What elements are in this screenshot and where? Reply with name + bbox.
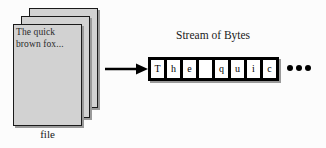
byte-cell (198, 59, 213, 79)
ellipsis-icon (287, 65, 311, 71)
byte-cell: h (166, 59, 181, 79)
file-caption: file (13, 128, 82, 140)
right-arrow-icon (105, 62, 149, 76)
ellipsis-dot (296, 65, 302, 71)
stream-title: Stream of Bytes (176, 29, 250, 41)
byte-stream: T h e q u i c (148, 57, 279, 81)
document-text: The quick brown fox... (16, 27, 82, 50)
ellipsis-dot (305, 65, 311, 71)
byte-cell: e (182, 59, 197, 79)
byte-cell: q (214, 59, 229, 79)
ellipsis-dot (287, 65, 293, 71)
byte-cell: u (230, 59, 245, 79)
byte-cell: c (262, 59, 277, 79)
document-text-line-1: The quick (16, 27, 82, 39)
byte-cell: i (246, 59, 261, 79)
document-text-line-2: brown fox... (16, 39, 82, 51)
diagram-canvas: The quick brown fox... file Stream of By… (0, 0, 326, 148)
file-page-front: The quick brown fox... (13, 24, 82, 126)
byte-cell: T (150, 59, 165, 79)
